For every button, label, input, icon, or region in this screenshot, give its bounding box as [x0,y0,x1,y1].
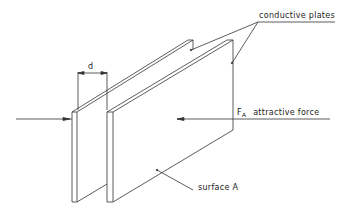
plates-label: conductive plates [259,11,335,20]
surface-label: surface A [198,183,238,192]
force-subscript: A [242,111,246,118]
right-plate [107,40,233,202]
force-text: attractive force [253,108,319,117]
plates-leader-lines [190,22,335,64]
gap-dimension [78,72,107,111]
surface-leader-line [156,169,193,190]
left-force-arrow [16,118,72,121]
capacitor-diagram [0,0,349,213]
force-label: FA attractive force [237,108,319,118]
gap-label: d [88,62,93,71]
